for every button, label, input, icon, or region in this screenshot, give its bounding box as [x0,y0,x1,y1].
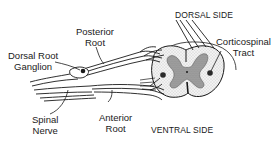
label-dorsal-side: DORSAL SIDE [175,10,233,21]
spinal-nerve-trunk [30,74,96,101]
label-ventral-side: VENTRAL SIDE [151,125,213,136]
label-dorsal-root-ganglion: Dorsal Root Ganglion [8,51,58,72]
label-posterior-root: Posterior Root [76,27,114,48]
label-spinal-nerve: Spinal Nerve [32,115,58,136]
dorsal-rootlet-lines [176,20,214,50]
spinal-cord-diagram: DORSAL SIDE Posterior Root Dorsal Root G… [0,0,276,142]
label-anterior-root: Anterior Root [99,113,132,134]
label-corticospinal-tract: Corticospinal Tract [216,37,271,58]
dorsal-root-ganglion [70,67,89,78]
